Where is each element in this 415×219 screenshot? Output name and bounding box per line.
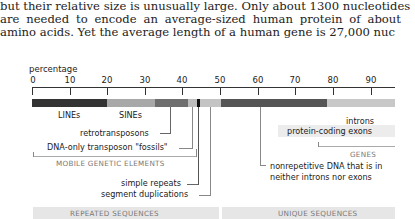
label-simple-repeats: simple repeats (121, 178, 181, 188)
label-repeated-sequences: REPEATED SEQUENCES (70, 209, 159, 218)
segment-nonrepetitive (221, 99, 327, 107)
axis-line (32, 87, 395, 88)
label-segment-duplications: segment duplications (101, 189, 188, 199)
leader-line (260, 165, 266, 166)
segment-introns (327, 99, 395, 107)
label-nonrepetitive-1: nonrepetitive DNA that is in (270, 161, 382, 171)
label-unique-sequences: UNIQUE SEQUENCES (278, 209, 357, 218)
axis-tick (145, 87, 146, 95)
segment-sines (107, 99, 155, 107)
label-genes: GENES (350, 150, 376, 159)
tick-label: 50 (215, 75, 226, 85)
label-dna-transposons: DNA-only transposon "fossils" (47, 142, 168, 152)
axis-title: percentage (29, 64, 77, 74)
mobile-bracket-end (33, 152, 34, 157)
label-protein-coding-exons: protein-coding exons (287, 126, 372, 136)
tick-label: 10 (65, 75, 76, 85)
tick-label: 20 (102, 75, 113, 85)
segment-retrotransposons (155, 99, 188, 107)
tick-label: 70 (290, 75, 301, 85)
label-sines: SINEs (119, 110, 142, 120)
mobile-bracket (33, 156, 196, 157)
axis-tick (107, 87, 108, 95)
leader-line (170, 107, 171, 134)
genes-bracket-end (318, 142, 319, 147)
leader-line (192, 107, 193, 149)
axis-tick (295, 87, 296, 95)
paragraph-line: amino acids. Yet the average length of a… (0, 26, 415, 39)
label-mobile-elements: MOBILE GENETIC ELEMENTS (56, 159, 165, 168)
tick-label: 60 (253, 75, 264, 85)
label-nonrepetitive-2: neither introns nor exons (270, 172, 372, 182)
leader-line (210, 107, 211, 196)
axis-tick (220, 87, 221, 95)
axis-tick (182, 87, 183, 95)
body-paragraph: but their relative size is unusually lar… (0, 0, 415, 40)
label-retrotransposons: retrotransposons (80, 128, 149, 138)
axis-tick (70, 87, 71, 95)
axis-tick (333, 87, 334, 95)
tick-label: 30 (140, 75, 151, 85)
axis-tick (258, 87, 259, 95)
segment-dna-transposons (188, 99, 197, 107)
tick-label: 0 (30, 75, 35, 85)
leader-line (179, 148, 193, 149)
segment-segment-duplications (200, 99, 221, 107)
genes-bracket (318, 146, 395, 147)
axis-tick (371, 87, 372, 95)
mobile-bracket-end (196, 149, 197, 157)
segment-lines (32, 99, 107, 107)
axis-tick (32, 87, 33, 95)
tick-label: 90 (366, 75, 377, 85)
tick-label: 80 (328, 75, 339, 85)
tick-label: 40 (177, 75, 188, 85)
label-lines: LINEs (58, 110, 80, 120)
leader-line (198, 107, 199, 185)
leader-line (260, 107, 261, 165)
